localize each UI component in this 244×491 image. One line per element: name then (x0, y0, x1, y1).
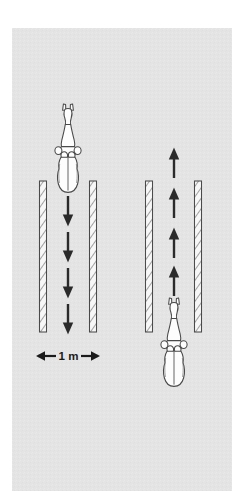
right-lane-barrier-right (195, 181, 202, 332)
schematic-diagram: 1 m (0, 0, 244, 491)
scale-bar-label: 1 m (59, 350, 79, 362)
right-lane-barrier-left (146, 181, 153, 332)
figure-root: 1 m (0, 0, 244, 491)
left-lane-barrier-right (90, 181, 97, 332)
left-lane-barrier-left (40, 181, 47, 332)
